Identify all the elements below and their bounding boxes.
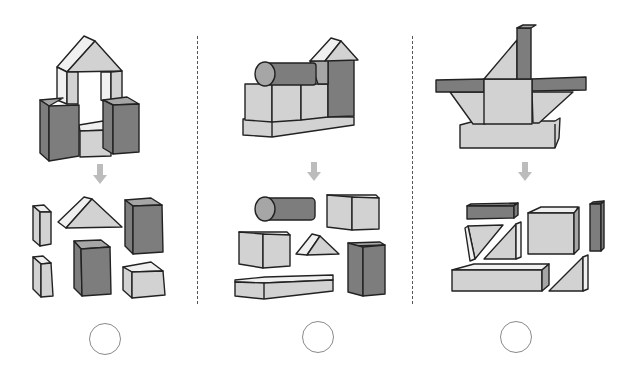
pieces-3 (452, 201, 604, 291)
panel-1 (0, 0, 197, 378)
answer-circle-1[interactable] (89, 323, 121, 355)
panel-2-figure (197, 0, 412, 378)
panel-2 (197, 0, 412, 378)
pieces-1 (33, 197, 165, 298)
answer-circle-2[interactable] (302, 321, 334, 353)
assembled-structure-1 (40, 36, 139, 161)
answer-circle-3[interactable] (500, 321, 532, 353)
pieces-2 (235, 195, 385, 299)
down-arrow-icon (518, 162, 532, 181)
assembled-structure-3 (436, 25, 586, 148)
panel-1-figure (0, 0, 197, 378)
down-arrow-icon (93, 164, 107, 184)
assembled-structure-2 (243, 38, 358, 137)
down-arrow-icon (307, 162, 321, 181)
panel-3 (412, 0, 630, 378)
